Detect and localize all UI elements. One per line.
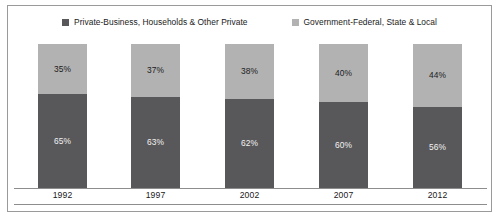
bar-label-government: 38% bbox=[241, 67, 258, 75]
bar-group-2002[interactable]: 38% 62% bbox=[225, 44, 274, 188]
x-tick-1992: 1992 bbox=[38, 190, 87, 200]
bar-label-government: 37% bbox=[147, 66, 164, 74]
bar-label-government: 35% bbox=[54, 65, 71, 73]
bar-label-government: 44% bbox=[429, 71, 446, 79]
bar-group-1992[interactable]: 35% 65% bbox=[38, 44, 87, 188]
plot-area: 35% 65% 37% 63% 38% bbox=[8, 6, 493, 213]
bar-label-private: 60% bbox=[335, 141, 352, 149]
bar-label-private: 56% bbox=[429, 143, 446, 151]
bar-segment-government[interactable]: 40% bbox=[319, 44, 368, 102]
bar-label-private: 63% bbox=[147, 138, 164, 146]
bar-label-private: 65% bbox=[54, 137, 71, 145]
bar-label-government: 40% bbox=[335, 69, 352, 77]
bar-group-2007[interactable]: 40% 60% bbox=[319, 44, 368, 188]
bar-stack: 35% 65% bbox=[38, 44, 87, 188]
bar-segment-private[interactable]: 62% bbox=[225, 99, 274, 188]
x-axis-line bbox=[14, 188, 487, 189]
x-tick-2002: 2002 bbox=[225, 190, 274, 200]
bar-stack: 38% 62% bbox=[225, 44, 274, 188]
bar-segment-government[interactable]: 37% bbox=[131, 44, 180, 97]
bar-label-private: 62% bbox=[241, 139, 258, 147]
bar-stack: 37% 63% bbox=[131, 44, 180, 188]
bar-stack: 44% 56% bbox=[413, 44, 462, 188]
chart-frame: Private-Business, Households & Other Pri… bbox=[7, 5, 492, 212]
x-tick-1997: 1997 bbox=[131, 190, 180, 200]
bar-segment-private[interactable]: 60% bbox=[319, 102, 368, 188]
bar-stack: 40% 60% bbox=[319, 44, 368, 188]
bar-group-1997[interactable]: 37% 63% bbox=[131, 44, 180, 188]
bar-segment-government[interactable]: 38% bbox=[225, 44, 274, 99]
bar-segment-government[interactable]: 35% bbox=[38, 44, 87, 94]
x-axis-baseline bbox=[14, 204, 487, 205]
bar-segment-private[interactable]: 65% bbox=[38, 94, 87, 188]
bar-segment-government[interactable]: 44% bbox=[413, 44, 462, 107]
bar-segment-private[interactable]: 63% bbox=[131, 97, 180, 188]
x-tick-2007: 2007 bbox=[319, 190, 368, 200]
x-tick-2012: 2012 bbox=[413, 190, 462, 200]
bar-group-2012[interactable]: 44% 56% bbox=[413, 44, 462, 188]
bar-segment-private[interactable]: 56% bbox=[413, 107, 462, 188]
